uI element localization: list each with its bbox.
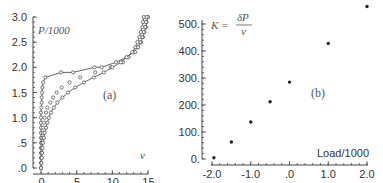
data-point-marker bbox=[114, 61, 117, 64]
data-point-marker bbox=[72, 71, 75, 74]
x-tick-label: .0 bbox=[285, 168, 294, 180]
panel-b-ylabel-lhs: K = bbox=[210, 19, 229, 31]
data-point-marker bbox=[40, 106, 43, 109]
data-point-marker bbox=[212, 156, 215, 159]
data-point-marker bbox=[79, 76, 82, 79]
data-point-marker bbox=[327, 42, 330, 45]
data-point-marker bbox=[119, 61, 122, 64]
y-tick-label: .5 bbox=[18, 137, 27, 149]
data-point-marker bbox=[49, 101, 52, 104]
data-point-marker bbox=[43, 116, 46, 119]
data-point-marker bbox=[67, 91, 70, 94]
data-point-marker bbox=[134, 46, 137, 49]
data-point-marker bbox=[40, 96, 43, 99]
x-tick-label: 2.0 bbox=[359, 168, 374, 180]
panel-b-ylabel: K = δP v bbox=[210, 11, 252, 37]
data-point-marker bbox=[60, 86, 63, 89]
data-point-marker bbox=[41, 151, 44, 154]
data-point-marker bbox=[131, 51, 134, 54]
panel-a-axes: .0.51.01.52.02.53.0 0.5.10.15. bbox=[12, 11, 158, 183]
data-point-marker bbox=[52, 96, 55, 99]
data-point-marker bbox=[59, 71, 62, 74]
y-tick-label: 400. bbox=[179, 45, 200, 57]
data-point-marker bbox=[142, 15, 145, 18]
y-tick-label: 300. bbox=[179, 72, 200, 84]
y-tick-label: 3.0 bbox=[12, 11, 27, 23]
x-tick-label: 15. bbox=[142, 176, 157, 183]
data-point-marker bbox=[82, 81, 85, 84]
data-point-marker bbox=[44, 111, 47, 114]
data-point-marker bbox=[68, 81, 71, 84]
panel-a-label: (a) bbox=[103, 88, 116, 102]
data-point-marker bbox=[43, 131, 46, 134]
data-point-marker bbox=[41, 91, 44, 94]
data-point-marker bbox=[40, 161, 43, 164]
x-tick-label: -1.0 bbox=[241, 168, 260, 180]
data-point-marker bbox=[42, 81, 45, 84]
panel-b-xlabel: Load/1000 bbox=[317, 147, 369, 159]
data-point-marker bbox=[39, 116, 42, 119]
data-point-marker bbox=[249, 120, 252, 123]
data-point-marker bbox=[74, 86, 77, 89]
x-tick-label: 5. bbox=[74, 176, 83, 183]
panel-b-x-ticks: -2.0-1.0.01.02.0 bbox=[203, 161, 375, 180]
series-1 bbox=[39, 15, 148, 169]
data-point-marker bbox=[42, 121, 45, 124]
data-point-marker bbox=[42, 141, 45, 144]
y-tick-label: 100. bbox=[179, 126, 200, 138]
data-point-marker bbox=[41, 86, 44, 89]
y-tick-label: 1.0 bbox=[12, 112, 27, 124]
data-point-marker bbox=[100, 66, 103, 69]
data-point-marker bbox=[125, 56, 128, 59]
y-tick-label: 2.0 bbox=[12, 61, 27, 73]
data-point-marker bbox=[55, 91, 58, 94]
data-point-marker bbox=[46, 121, 49, 124]
data-point-marker bbox=[40, 101, 43, 104]
data-point-marker bbox=[288, 80, 291, 83]
data-point-marker bbox=[61, 96, 64, 99]
panel-a-x-ticks: 0.5.10.15. bbox=[38, 170, 157, 183]
data-point-marker bbox=[46, 106, 49, 109]
data-point-marker bbox=[136, 41, 139, 44]
data-point-marker bbox=[94, 71, 97, 74]
data-point-marker bbox=[365, 5, 368, 8]
y-tick-label: 200. bbox=[179, 99, 200, 111]
data-point-marker bbox=[111, 66, 114, 69]
panel-b-series bbox=[212, 5, 368, 160]
panel-b-label: (b) bbox=[311, 86, 325, 100]
panel-b: 0.100.200.300.400.500. -2.0-1.0.01.02.0 … bbox=[179, 5, 375, 180]
data-point-marker bbox=[93, 66, 96, 69]
y-tick-label: 500. bbox=[179, 18, 200, 30]
data-point-marker bbox=[39, 166, 42, 169]
data-point-marker bbox=[47, 116, 50, 119]
y-tick-label: 2.5 bbox=[12, 36, 27, 48]
data-point-marker bbox=[268, 100, 271, 103]
data-point-marker bbox=[42, 136, 45, 139]
series-0 bbox=[212, 5, 368, 160]
data-point-marker bbox=[52, 106, 55, 109]
data-point-marker bbox=[92, 76, 95, 79]
data-point-marker bbox=[49, 111, 52, 114]
panel-a: .0.51.01.52.02.53.0 0.5.10.15. P/1000 (a… bbox=[12, 11, 158, 183]
data-point-marker bbox=[138, 36, 141, 39]
data-point-marker bbox=[40, 156, 43, 159]
data-point-marker bbox=[41, 146, 44, 149]
y-tick-label: 1.5 bbox=[12, 87, 27, 99]
y-tick-label: .0 bbox=[18, 162, 27, 174]
panel-a-series bbox=[39, 15, 149, 169]
panel-a-ylabel: P/1000 bbox=[37, 24, 70, 36]
figure: .0.51.01.52.02.53.0 0.5.10.15. P/1000 (a… bbox=[0, 0, 383, 183]
x-tick-label: 0. bbox=[38, 176, 47, 183]
x-tick-label: -2.0 bbox=[203, 168, 222, 180]
data-point-marker bbox=[44, 126, 47, 129]
data-point-marker bbox=[56, 101, 59, 104]
panel-b-ylabel-denominator: v bbox=[241, 25, 246, 37]
data-point-marker bbox=[44, 76, 47, 79]
panel-a-xlabel: v bbox=[140, 149, 145, 161]
x-tick-label: 10. bbox=[107, 176, 122, 183]
data-point-marker bbox=[230, 140, 233, 143]
panel-b-ylabel-numerator: δP bbox=[237, 11, 249, 23]
data-point-marker bbox=[39, 111, 42, 114]
data-point-marker bbox=[141, 20, 144, 23]
y-tick-label: 0. bbox=[191, 153, 200, 165]
